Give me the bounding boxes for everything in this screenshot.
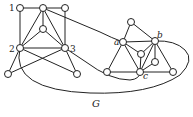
node [62, 5, 69, 12]
node [128, 19, 135, 26]
edge [43, 8, 123, 42]
edge [155, 41, 173, 72]
edge-curve [19, 41, 189, 93]
node [170, 69, 177, 76]
label-3: 3 [70, 44, 76, 54]
label-c: c [143, 71, 148, 81]
edge [20, 48, 77, 74]
node [40, 5, 47, 12]
node [74, 71, 81, 78]
edge [43, 29, 65, 48]
node-a [120, 39, 127, 46]
node [5, 71, 12, 78]
edge-curve [86, 62, 140, 80]
edge [131, 22, 155, 41]
label-a: a [114, 37, 119, 47]
node [104, 69, 111, 76]
node [152, 59, 159, 66]
graph-title: G [92, 98, 100, 109]
node [138, 51, 145, 58]
edge [123, 41, 155, 42]
edge [20, 29, 43, 48]
edge [123, 42, 140, 72]
label-2: 2 [9, 44, 15, 54]
node [40, 26, 47, 33]
edges [8, 8, 189, 93]
label-b: b [157, 30, 163, 40]
label-1: 1 [9, 3, 15, 13]
node-1 [17, 5, 24, 12]
graph-diagram: 1 2 3 a b c G [0, 0, 193, 117]
edge [8, 48, 65, 74]
node-3 [62, 45, 69, 52]
node-2 [17, 45, 24, 52]
